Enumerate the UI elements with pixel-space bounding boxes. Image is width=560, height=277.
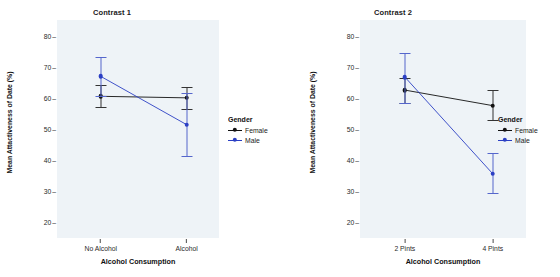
panel-title: Contrast 2 bbox=[248, 8, 538, 17]
legend-title: Gender bbox=[228, 116, 274, 123]
error-bar-cap-male bbox=[181, 156, 192, 157]
error-bar-cap-female bbox=[487, 120, 498, 121]
y-tick-label: 40– bbox=[347, 157, 360, 164]
legend-item-male[interactable]: Male bbox=[498, 136, 538, 145]
y-tick-label: 80– bbox=[44, 32, 57, 39]
error-bar-cap-male bbox=[95, 57, 106, 58]
legend-label: Male bbox=[515, 137, 530, 144]
x-tick-label: 4 Pints bbox=[482, 238, 503, 252]
legend-item-male[interactable]: Male bbox=[228, 136, 274, 145]
error-bar-cap-male bbox=[181, 93, 192, 94]
x-axis-title: Alcohol Consumption bbox=[360, 257, 526, 266]
error-bar-cap-female bbox=[95, 107, 106, 108]
panel-title: Contrast 1 bbox=[0, 8, 252, 17]
data-point-male bbox=[403, 75, 408, 80]
legend-swatch-female-icon bbox=[228, 127, 242, 134]
error-bar-cap-male bbox=[399, 103, 410, 104]
x-tick-label: Alcohol bbox=[175, 238, 197, 252]
x-tick-label: No Alcohol bbox=[84, 238, 117, 252]
y-tick-label: 60– bbox=[347, 94, 360, 101]
error-bar-cap-female bbox=[487, 90, 498, 91]
series-line-male bbox=[101, 76, 187, 124]
legend-swatch-male-icon bbox=[498, 137, 512, 144]
legend-label: Female bbox=[245, 127, 268, 134]
y-tick-label: 20– bbox=[347, 219, 360, 226]
y-tick-label: 40– bbox=[44, 157, 57, 164]
y-axis-title: Mean Attactiveness of Date (%) bbox=[309, 72, 316, 174]
legend-label: Male bbox=[245, 137, 260, 144]
legend-swatch-female-icon bbox=[498, 127, 512, 134]
legend: Gender FemaleMale bbox=[228, 116, 274, 146]
series-line-male bbox=[405, 77, 493, 174]
y-tick-label: 30– bbox=[44, 188, 57, 195]
y-tick-label: 50– bbox=[347, 126, 360, 133]
error-bar-cap-male bbox=[399, 53, 410, 54]
figure-canvas: Contrast 1 Mean Attactiveness of Date (%… bbox=[0, 0, 560, 277]
x-tick-label: 2 Pints bbox=[394, 238, 415, 252]
y-tick-label: 50– bbox=[44, 126, 57, 133]
y-tick-label: 60– bbox=[44, 94, 57, 101]
y-tick-label: 30– bbox=[347, 188, 360, 195]
legend-item-female[interactable]: Female bbox=[498, 126, 538, 135]
y-tick-label: 20– bbox=[44, 219, 57, 226]
data-point-male bbox=[98, 74, 103, 79]
chart-panel-contrast-2: Contrast 2 Mean Attactiveness of Date (%… bbox=[270, 0, 560, 277]
legend-items: FemaleMale bbox=[498, 126, 538, 145]
error-bar-cap-female bbox=[181, 87, 192, 88]
error-bar-cap-male bbox=[95, 96, 106, 97]
data-point-female bbox=[491, 103, 496, 108]
series-lines bbox=[57, 20, 219, 238]
legend-items: FemaleMale bbox=[228, 126, 274, 145]
data-point-male bbox=[184, 122, 189, 127]
data-point-male bbox=[491, 172, 496, 177]
y-tick-label: 70– bbox=[44, 63, 57, 70]
y-tick-label: 80– bbox=[347, 32, 360, 39]
error-bar-cap-male bbox=[487, 153, 498, 154]
series-line-female bbox=[405, 90, 493, 106]
legend-item-female[interactable]: Female bbox=[228, 126, 274, 135]
chart-panel-contrast-1: Contrast 1 Mean Attactiveness of Date (%… bbox=[0, 0, 280, 277]
series-line-female bbox=[101, 96, 187, 98]
legend: Gender FemaleMale bbox=[498, 116, 538, 146]
legend-swatch-male-icon bbox=[228, 137, 242, 144]
legend-title: Gender bbox=[498, 116, 538, 123]
x-axis-title: Alcohol Consumption bbox=[57, 257, 219, 266]
data-overlay bbox=[57, 20, 219, 238]
y-axis-title: Mean Attactiveness of Date (%) bbox=[6, 72, 13, 174]
y-tick-label: 70– bbox=[347, 63, 360, 70]
legend-label: Female bbox=[515, 127, 538, 134]
error-bar-cap-male bbox=[487, 193, 498, 194]
plot-area: 20–30–40–50–60–70–80– No AlcoholAlcohol … bbox=[57, 20, 219, 238]
